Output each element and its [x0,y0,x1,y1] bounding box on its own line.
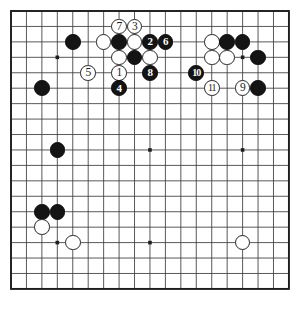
stone-move-11: 11 [204,80,220,96]
stone-black [111,34,127,50]
stone-black [34,204,50,220]
stone-black [34,80,50,96]
star-point [148,241,152,245]
stone-move-number: 9 [240,82,245,94]
stone-white [111,50,127,66]
stone-white [204,34,220,50]
stone-white [127,34,143,50]
stone-white [96,34,112,50]
stone-black [250,80,266,96]
stone-black [50,204,66,220]
stone-black [235,34,251,50]
stone-move-number: 7 [116,20,121,32]
stone-move-number: 5 [86,67,91,79]
stone-move-number: 2 [147,36,152,47]
stone-black [250,50,266,66]
stone-move-number: 6 [163,36,168,47]
stone-black [50,142,66,158]
star-point [56,56,60,60]
stone-move-number: 4 [117,82,122,93]
star-point [241,56,245,60]
stone-move-6: 6 [158,34,174,50]
stone-white [65,235,81,251]
stone-black [219,34,235,50]
stone-move-number: 3 [132,20,137,32]
stone-move-7: 7 [111,19,127,35]
stone-white [34,219,50,235]
stone-white [219,50,235,66]
stone-move-number: 10 [192,67,200,77]
go-diagram: 1234567891011 [0,0,300,311]
stone-move-2: 2 [142,34,158,50]
stone-move-number: 8 [147,67,152,78]
star-point [56,241,60,245]
stone-move-number: 11 [208,83,216,93]
stone-move-8: 8 [142,65,158,81]
stone-move-number: 1 [116,67,121,79]
stone-move-5: 5 [80,65,96,81]
stone-white [142,50,158,66]
star-point [241,148,245,152]
stone-white [204,50,220,66]
stone-move-10: 10 [188,65,204,81]
star-point [148,148,152,152]
stone-move-4: 4 [111,80,127,96]
stone-move-1: 1 [111,65,127,81]
stone-black [65,34,81,50]
